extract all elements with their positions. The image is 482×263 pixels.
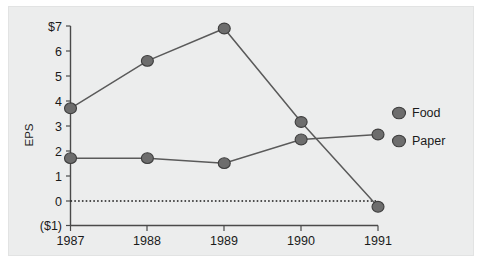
y-tick-label-4: 4 <box>55 95 62 109</box>
data-point-paper-1989[interactable] <box>218 158 230 169</box>
data-point-paper-1988[interactable] <box>141 153 153 164</box>
data-point-food-1990[interactable] <box>295 117 307 128</box>
y-tick-label-7: $7 <box>48 20 62 34</box>
legend-marker-paper-icon <box>393 135 406 147</box>
data-point-food-1991[interactable] <box>372 201 384 212</box>
x-tick-label-1989: 1989 <box>210 234 238 248</box>
data-point-paper-1991[interactable] <box>372 129 384 140</box>
y-tick-label-0: 0 <box>55 195 62 209</box>
y-tick-label-neg1: ($1) <box>40 219 62 233</box>
legend-label-food: Food <box>412 106 441 120</box>
legend-item-food[interactable]: Food <box>393 106 441 120</box>
legend-marker-food-icon <box>393 107 406 119</box>
x-tick-label-1990: 1990 <box>287 234 315 248</box>
series-line-food <box>71 28 379 206</box>
y-tick-label-1: 1 <box>55 170 62 184</box>
chart-plot-area: $7 6 5 4 3 2 1 0 ($1) EPS 1987 1988 1989… <box>0 0 482 263</box>
legend-label-paper: Paper <box>412 134 445 148</box>
y-tick-label-2: 2 <box>55 145 62 159</box>
data-point-food-1989[interactable] <box>218 23 230 34</box>
eps-line-chart: $7 6 5 4 3 2 1 0 ($1) EPS 1987 1988 1989… <box>0 0 482 263</box>
data-point-paper-1987[interactable] <box>65 153 77 164</box>
y-tick-label-5: 5 <box>55 70 62 84</box>
data-point-paper-1990[interactable] <box>295 134 307 145</box>
data-point-food-1987[interactable] <box>65 103 77 114</box>
y-axis-title: EPS <box>23 123 35 146</box>
chart-legend: Food Paper <box>393 106 446 148</box>
x-axis-ticks <box>71 226 379 232</box>
data-point-food-1988[interactable] <box>141 56 153 67</box>
y-tick-label-6: 6 <box>55 45 62 59</box>
x-tick-label-1991: 1991 <box>364 234 392 248</box>
legend-item-paper[interactable]: Paper <box>393 134 446 148</box>
x-tick-label-1988: 1988 <box>133 234 161 248</box>
series-layer <box>65 23 385 212</box>
x-tick-label-1987: 1987 <box>57 234 85 248</box>
y-tick-label-3: 3 <box>55 120 62 134</box>
